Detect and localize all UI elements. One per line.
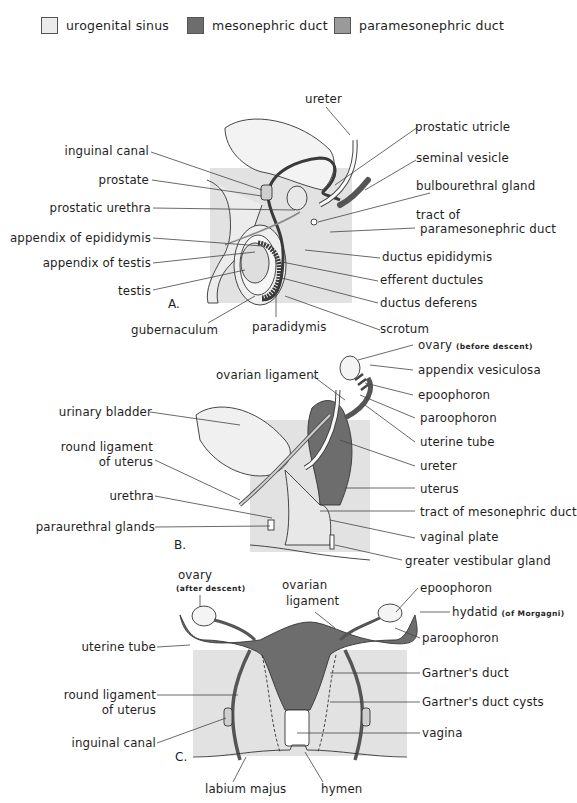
label-ovarian-ligament-c1: ovarian <box>282 578 327 592</box>
label-ductus-deferens: ductus deferens <box>380 296 477 310</box>
panel-b-drawing <box>196 356 370 560</box>
label-appendix-vesiculosa: appendix vesiculosa <box>418 363 541 377</box>
panel-c-drawing <box>180 604 417 760</box>
label-ovarian-ligament-c2: ligament <box>286 594 339 608</box>
label-seminal-vesicle: seminal vesicle <box>416 151 509 165</box>
label-tract-of: tract of <box>416 208 460 222</box>
label-paraurethral-glands: paraurethral glands <box>0 520 155 534</box>
label-round-ligament-c2: of uterus <box>0 703 156 717</box>
label-gubernaculum: gubernaculum <box>131 323 218 337</box>
label-paradidymis: paradidymis <box>252 320 327 334</box>
label-ureter-a: ureter <box>305 92 342 106</box>
label-epoophoron-c: epoophoron <box>420 581 492 595</box>
label-ovary-b-text: ovary <box>418 338 452 352</box>
label-hydatid: hydatid (of Morgagni) <box>452 605 565 621</box>
label-uterine-tube-b: uterine tube <box>420 435 495 449</box>
label-round-ligament-b1: round ligament <box>0 440 153 454</box>
label-paroophoron-c: paroophoron <box>422 631 499 645</box>
label-urinary-bladder: urinary bladder <box>0 405 152 419</box>
label-ovary-b: ovary (before descent) <box>418 338 533 354</box>
label-hydatid-text: hydatid <box>452 605 498 619</box>
label-efferent-ductules: efferent ductules <box>380 273 483 287</box>
label-greater-vestibular-gland: greater vestibular gland <box>405 554 551 568</box>
label-gartners-duct-cysts: Gartner's duct cysts <box>422 695 544 709</box>
label-appendix-of-testis: appendix of testis <box>0 256 151 270</box>
label-round-ligament-c1: round ligament <box>0 688 156 702</box>
label-appendix-of-epididymis: appendix of epididymis <box>0 231 151 245</box>
label-tract-of-mesonephric-duct: tract of mesonephric duct <box>420 505 577 519</box>
label-bulbourethral-gland: bulbourethral gland <box>416 179 535 193</box>
label-uterine-tube-c: uterine tube <box>0 640 156 654</box>
panel-a-letter: A. <box>168 297 180 311</box>
label-vagina: vagina <box>422 726 463 740</box>
label-ovary-c: ovary <box>178 568 212 582</box>
label-prostatic-utricle: prostatic utricle <box>415 120 510 134</box>
label-uterus: uterus <box>420 482 459 496</box>
label-ovary-c-note: (after descent) <box>176 582 246 596</box>
label-gartners-duct: Gartner's duct <box>422 666 509 680</box>
label-vaginal-plate: vaginal plate <box>420 530 499 544</box>
label-ovary-b-note: (before descent) <box>456 342 533 351</box>
label-ovarian-ligament-b: ovarian ligament <box>216 368 319 382</box>
panel-b-letter: B. <box>174 538 186 552</box>
label-paroophoron-b: paroophoron <box>420 411 497 425</box>
label-testis: testis <box>0 284 151 298</box>
label-prostatic-urethra: prostatic urethra <box>0 201 151 215</box>
label-hymen: hymen <box>321 782 362 796</box>
panel-a-drawing <box>207 119 368 305</box>
label-labium-majus: labium majus <box>205 782 286 796</box>
label-round-ligament-b2: of uterus <box>0 455 153 469</box>
label-ductus-epididymis: ductus epididymis <box>382 250 492 264</box>
label-inguinal-canal-c: inguinal canal <box>0 736 156 750</box>
label-urethra: urethra <box>0 489 154 503</box>
label-ureter-b: ureter <box>420 459 457 473</box>
label-hydatid-note: (of Morgagni) <box>502 609 565 618</box>
label-inguinal-canal: inguinal canal <box>0 144 149 158</box>
label-prostate: prostate <box>0 173 149 187</box>
label-scrotum: scrotum <box>380 322 429 336</box>
label-epoophoron-b: epoophoron <box>418 388 490 402</box>
label-paramesonephric-duct-tract: paramesonephric duct <box>420 222 556 236</box>
panel-c-letter: C. <box>175 750 187 764</box>
